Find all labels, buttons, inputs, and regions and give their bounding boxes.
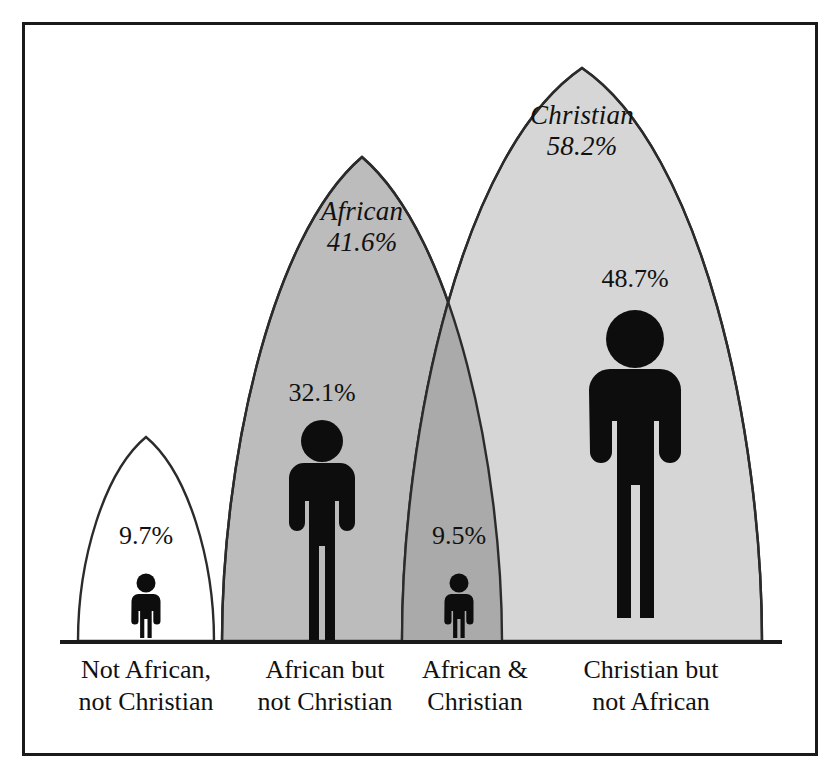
category-line-2: not African xyxy=(556,686,746,718)
category-label-christian-not-african: Christian but not African xyxy=(556,654,746,717)
category-line-1: Not African, xyxy=(61,654,231,686)
chart-figure: African 41.6% Christian 58.2% 9.7% 32.1%… xyxy=(0,0,837,781)
set-label-african: African 41.6% xyxy=(258,196,466,259)
category-line-2: Christian xyxy=(400,686,550,718)
value-label-christian-not-african: 48.7% xyxy=(575,264,695,294)
category-line-2: not Christian xyxy=(240,686,410,718)
set-label-christian: Christian 58.2% xyxy=(478,100,686,163)
plot-area: African 41.6% Christian 58.2% 9.7% 32.1%… xyxy=(0,0,837,781)
set-label-african-name: African xyxy=(258,196,466,227)
set-label-christian-name: Christian xyxy=(478,100,686,131)
set-label-christian-percent: 58.2% xyxy=(478,131,686,162)
category-line-1: African & xyxy=(400,654,550,686)
value-label-african-and-christian: 9.5% xyxy=(399,521,519,551)
category-line-2: not Christian xyxy=(61,686,231,718)
category-label-african-not-christian: African but not Christian xyxy=(240,654,410,717)
category-line-1: African but xyxy=(240,654,410,686)
category-line-1: Christian but xyxy=(556,654,746,686)
category-label-not-african-not-christian: Not African, not Christian xyxy=(61,654,231,717)
set-label-african-percent: 41.6% xyxy=(258,227,466,258)
value-label-african-not-christian: 32.1% xyxy=(262,378,382,408)
value-label-not-african-not-christian: 9.7% xyxy=(86,521,206,551)
category-label-african-and-christian: African & Christian xyxy=(400,654,550,717)
